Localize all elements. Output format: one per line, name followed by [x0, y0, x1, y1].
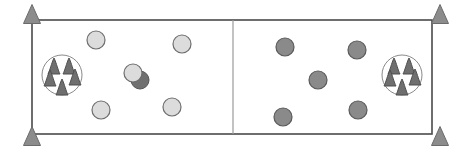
light-marker-4	[92, 101, 110, 119]
corner-marker-top-right-icon	[432, 5, 449, 24]
light-marker-1	[87, 31, 105, 49]
corner-marker-top-left-icon	[24, 5, 41, 24]
field-diagram-svg	[0, 0, 463, 152]
light-marker-2	[173, 35, 191, 53]
corner-marker-bottom-right-icon	[432, 127, 449, 146]
dark-marker-3	[309, 71, 327, 89]
light-marker-3	[124, 64, 142, 82]
dark-marker-2	[348, 41, 366, 59]
dark-marker-4	[274, 108, 292, 126]
dark-marker-1	[276, 38, 294, 56]
light-marker-5	[163, 98, 181, 116]
dark-marker-5	[349, 101, 367, 119]
field-diagram-scene	[0, 0, 463, 152]
